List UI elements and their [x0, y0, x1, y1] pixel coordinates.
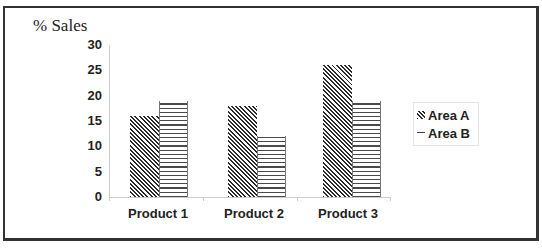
bar-area-a-product-1 — [130, 116, 159, 197]
x-axis-tick — [390, 197, 391, 201]
bar-area-b-product-1 — [159, 101, 188, 197]
bar-area-b-product-3 — [352, 101, 381, 197]
x-axis-tick — [297, 197, 298, 201]
y-tick-label: 0 — [72, 189, 102, 204]
bar-area-b-product-2 — [257, 136, 286, 197]
x-axis-tick — [109, 197, 110, 201]
legend-label-area-a: Area A — [428, 108, 469, 123]
x-axis-tick — [203, 197, 204, 201]
legend-label-area-b: Area B — [428, 126, 470, 141]
y-tick-label: 10 — [72, 138, 102, 153]
y-tick-label: 15 — [72, 113, 102, 128]
x-axis-line — [109, 197, 391, 198]
y-axis-title: % Sales — [33, 16, 87, 36]
y-tick-label: 30 — [72, 37, 102, 52]
y-tick-label: 20 — [72, 88, 102, 103]
bar-area-a-product-3 — [323, 65, 352, 197]
y-tick-label: 5 — [72, 164, 102, 179]
legend: Area A Area B — [413, 102, 479, 146]
x-tick-label-product-1: Product 1 — [113, 206, 203, 221]
y-axis-line — [109, 45, 110, 198]
bar-area-a-product-2 — [228, 106, 257, 197]
horizontal-line-swatch-icon — [417, 129, 425, 137]
x-tick-label-product-2: Product 2 — [209, 206, 299, 221]
legend-item-area-a: Area A — [417, 107, 469, 123]
legend-item-area-b: Area B — [417, 125, 470, 141]
x-tick-label-product-3: Product 3 — [303, 206, 393, 221]
y-tick-label: 25 — [72, 62, 102, 77]
diagonal-hatch-swatch-icon — [417, 111, 425, 119]
